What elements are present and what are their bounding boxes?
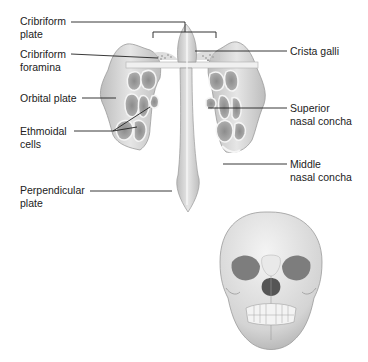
- skull-illustration: [220, 212, 322, 350]
- ethmoid-diagram: Cribriform plate Cribriform foramina Orb…: [0, 0, 368, 362]
- label-ethmoidal-cells: Ethmoidal cells: [20, 125, 67, 150]
- perpendicular-plate: [177, 68, 200, 212]
- label-middle-nasal-concha: Middle nasal concha: [290, 158, 352, 183]
- label-crista-galli: Crista galli: [290, 45, 339, 58]
- label-perpendicular-plate: Perpendicular plate: [20, 184, 85, 209]
- label-cribriform-plate: Cribriform plate: [20, 15, 66, 40]
- label-orbital-plate: Orbital plate: [20, 92, 77, 105]
- label-superior-nasal-concha: Superior nasal concha: [290, 102, 352, 127]
- label-cribriform-foramina: Cribriform foramina: [20, 48, 66, 73]
